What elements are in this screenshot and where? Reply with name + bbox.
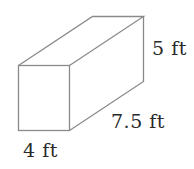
front-face bbox=[19, 66, 70, 131]
height-label: 5 ft bbox=[152, 39, 187, 58]
width-label: 4 ft bbox=[23, 141, 58, 160]
depth-label: 7.5 ft bbox=[111, 112, 165, 131]
prism-diagram: 5 ft 7.5 ft 4 ft bbox=[0, 0, 194, 169]
top-face-edges bbox=[19, 17, 144, 66]
